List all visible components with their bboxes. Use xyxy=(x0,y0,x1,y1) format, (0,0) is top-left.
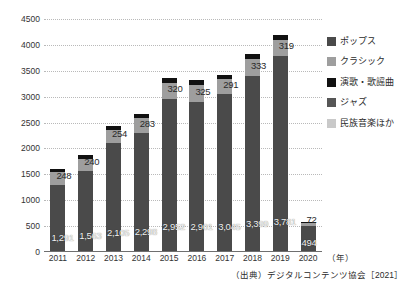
bar-top-value-label: 291 xyxy=(223,80,238,90)
y-axis-tick-label: 3500 xyxy=(21,67,40,76)
bar-segment xyxy=(162,78,177,83)
bar-value-label: 3,045 xyxy=(218,222,240,232)
legend-item[interactable]: 民族音楽ほか xyxy=(327,118,407,128)
bar-value-label: 3,399 xyxy=(246,219,268,229)
bar-segment xyxy=(273,35,288,40)
y-axis-tick-label: 1000 xyxy=(21,196,40,205)
y-axis-tick-label: 4000 xyxy=(21,41,40,50)
clipped-header-strip xyxy=(0,0,409,9)
bar-value-label: 2,901 xyxy=(190,222,212,232)
y-axis-tick-label: 1500 xyxy=(21,170,40,179)
legend-item[interactable]: ポップス xyxy=(327,36,407,46)
bar-value-label: 2,105 xyxy=(107,228,129,238)
bar-column: 3,045291 xyxy=(217,75,232,252)
plot-area: 1,2912481,5632402,1052542,2982832,952320… xyxy=(44,19,322,252)
x-axis-tick-label: 2013 xyxy=(104,254,123,263)
legend-item-label: 民族音楽ほか xyxy=(340,119,394,128)
legend-item[interactable]: 演歌・歌謡曲 xyxy=(327,77,407,87)
bar-top-value-label: 254 xyxy=(112,129,127,139)
x-axis: 2011201220132014201520162017201820192020 xyxy=(44,254,322,268)
bar-value-label: 2,298 xyxy=(135,227,157,237)
source-note: （出典）デジタルコンテンツ協会［2021］ xyxy=(231,270,403,280)
bar-column: 3,781319 xyxy=(273,35,288,252)
legend: ポップスクラシック演歌・歌謡曲ジャズ民族音楽ほか xyxy=(327,36,407,139)
y-axis: 050010001500200025003000350040004500 xyxy=(0,19,40,252)
bar-top-value-label: 283 xyxy=(140,119,155,129)
bar-top-value-label: 72 xyxy=(307,215,317,225)
x-axis-tick-label: 2017 xyxy=(215,254,234,263)
x-axis-line xyxy=(44,251,322,252)
x-axis-unit-label: （年） xyxy=(327,254,354,263)
legend-swatch-icon xyxy=(327,57,336,66)
bar-value-label: 3,781 xyxy=(274,217,296,227)
x-axis-tick-label: 2016 xyxy=(187,254,206,263)
legend-item-label: ジャズ xyxy=(340,98,367,107)
legend-swatch-icon xyxy=(327,119,336,128)
y-axis-tick-label: 0 xyxy=(35,248,40,257)
legend-item[interactable]: クラシック xyxy=(327,57,407,67)
bar-column: 2,901325 xyxy=(189,80,204,252)
bar-column: 2,952320 xyxy=(162,78,177,252)
y-axis-tick-label: 500 xyxy=(26,222,40,231)
legend-item-label: ポップス xyxy=(340,37,376,46)
bar-value-label: 1,291 xyxy=(51,233,73,243)
x-axis-tick-label: 2012 xyxy=(76,254,95,263)
legend-swatch-icon xyxy=(327,98,336,107)
x-axis-tick-label: 2011 xyxy=(49,254,67,263)
y-axis-tick-label: 2500 xyxy=(21,118,40,127)
x-axis-tick-label: 2020 xyxy=(299,254,318,263)
bar-series-group: 1,2912481,5632402,1052542,2982832,952320… xyxy=(44,19,322,252)
legend-swatch-icon xyxy=(327,37,336,46)
legend-item-label: 演歌・歌謡曲 xyxy=(340,78,394,87)
bar-column: 3,399333 xyxy=(245,54,260,252)
bar-value-label: 2,952 xyxy=(163,222,185,232)
bar-value-label: 494 xyxy=(302,238,317,248)
bar-column: 1,291248 xyxy=(50,169,65,252)
bar-top-value-label: 320 xyxy=(168,84,183,94)
legend-swatch-icon xyxy=(327,78,336,87)
bar-column: 2,298283 xyxy=(134,114,149,252)
chart-root: 050010001500200025003000350040004500 1,2… xyxy=(0,0,409,284)
bar-top-value-label: 248 xyxy=(56,171,71,181)
bar-top-value-label: 333 xyxy=(251,61,266,71)
bar-value-label: 1,563 xyxy=(79,231,101,241)
y-axis-tick-label: 2000 xyxy=(21,144,40,153)
bar-top-value-label: 319 xyxy=(279,41,294,51)
bar-segment xyxy=(189,80,204,85)
bar-column: 49472 xyxy=(301,222,316,252)
bar-column: 1,563240 xyxy=(78,155,93,252)
x-axis-tick-label: 2019 xyxy=(271,254,290,263)
x-axis-tick-label: 2015 xyxy=(160,254,179,263)
x-axis-tick-label: 2018 xyxy=(243,254,262,263)
legend-item-label: クラシック xyxy=(340,57,385,66)
bar-column: 2,105254 xyxy=(106,126,121,252)
y-axis-tick-label: 4500 xyxy=(21,15,40,24)
bar-top-value-label: 325 xyxy=(195,87,210,97)
bar-top-value-label: 240 xyxy=(84,157,99,167)
y-axis-tick-label: 3000 xyxy=(21,92,40,101)
x-axis-tick-label: 2014 xyxy=(132,254,151,263)
legend-item[interactable]: ジャズ xyxy=(327,98,407,108)
bar-segment xyxy=(245,54,260,59)
